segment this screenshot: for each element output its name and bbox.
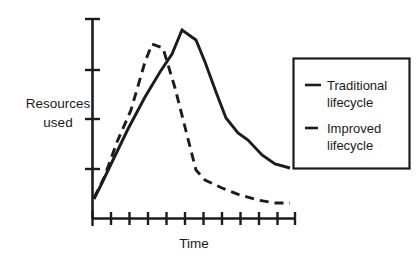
legend-label-traditional-line2: lifecycle xyxy=(327,95,373,110)
chart-legend: Traditional lifecycle Improved lifecycle xyxy=(294,59,410,169)
x-axis-label: Time xyxy=(179,236,209,251)
legend-label-improved-line1: Improved xyxy=(327,121,381,136)
resources-used-vs-time-chart: Resources used Time Traditional lifecycl… xyxy=(0,0,417,260)
legend-label-traditional-line1: Traditional xyxy=(327,78,387,93)
y-axis-label-line1: Resources xyxy=(26,96,91,111)
y-axis-label-line2: used xyxy=(43,115,72,130)
legend-label-improved-line2: lifecycle xyxy=(327,138,373,153)
